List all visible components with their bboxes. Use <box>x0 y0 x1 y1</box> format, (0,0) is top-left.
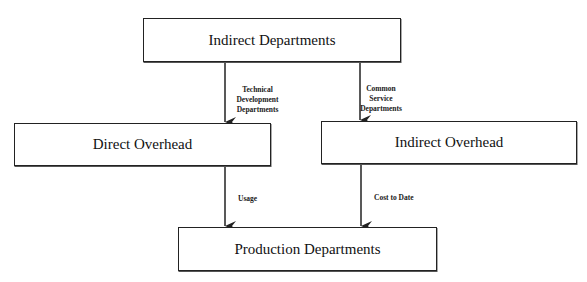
node-label: Indirect Overhead <box>395 134 504 151</box>
node-direct-overhead: Direct Overhead <box>14 123 271 166</box>
edge-label-technical-development: Technical Development Departments <box>235 85 280 115</box>
edge-label-usage: Usage <box>238 194 257 204</box>
node-indirect-departments: Indirect Departments <box>143 18 401 62</box>
edge-label-line: Common <box>360 84 402 94</box>
edge-label-line: Departments <box>235 105 280 115</box>
node-indirect-overhead: Indirect Overhead <box>321 121 577 164</box>
edge-label-cost-to-date: Cost to Date <box>374 193 414 203</box>
edge-label-line: Service <box>360 94 402 104</box>
edge-label-common-service: Common Service Departments <box>360 84 402 114</box>
edge-label-line: Development <box>235 95 280 105</box>
node-label: Production Departments <box>234 241 380 258</box>
edge-label-line: Departments <box>360 104 402 114</box>
node-label: Direct Overhead <box>93 136 193 153</box>
node-production-departments: Production Departments <box>178 227 437 271</box>
edge-label-line: Technical <box>235 85 280 95</box>
node-label: Indirect Departments <box>208 32 335 49</box>
